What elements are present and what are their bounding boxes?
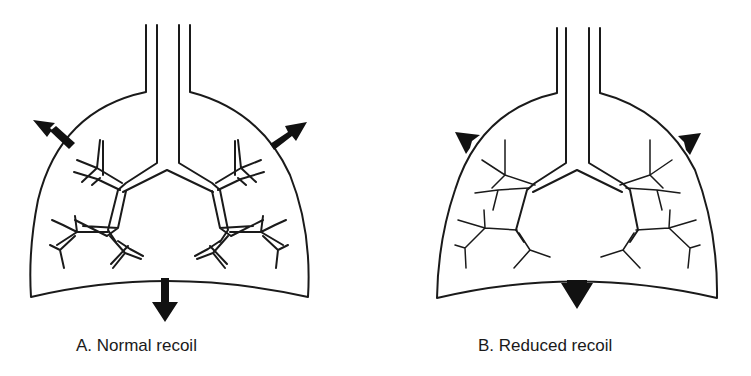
panel-b-carina bbox=[533, 170, 622, 192]
arrow-down-icon bbox=[561, 280, 593, 309]
caption-panel-a: A. Normal recoil bbox=[76, 336, 197, 356]
panel-a-lung bbox=[30, 25, 308, 297]
lung-recoil-diagram bbox=[0, 0, 751, 376]
panel-b-arrows bbox=[455, 132, 701, 309]
caption-panel-b: B. Reduced recoil bbox=[478, 336, 612, 356]
panel-a-trachea-right-inner bbox=[179, 25, 228, 242]
panel-a-lung-outline bbox=[30, 25, 308, 297]
panel-b-lung-outline bbox=[437, 28, 717, 298]
panel-a-arrows bbox=[33, 120, 307, 322]
panel-a-trachea-left-inner bbox=[108, 25, 157, 242]
arrow-up-right-icon bbox=[678, 133, 701, 155]
panel-b-lung bbox=[437, 28, 717, 298]
panel-b-trachea-right-inner bbox=[589, 28, 638, 242]
arrow-up-left-icon bbox=[455, 132, 480, 154]
arrow-down-icon bbox=[152, 278, 178, 322]
arrow-up-right-icon bbox=[270, 122, 307, 150]
panel-b-trachea-left-inner bbox=[516, 28, 566, 242]
panel-a-carina bbox=[123, 170, 213, 192]
